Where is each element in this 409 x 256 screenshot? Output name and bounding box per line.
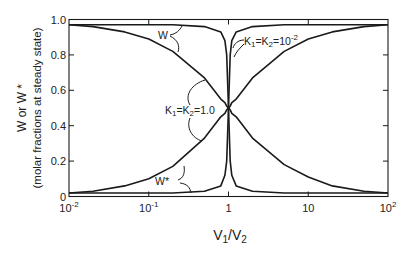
annotation-w: W (158, 29, 168, 41)
annotation-k-tenth: K1=K2=10-2 (244, 33, 299, 49)
arrow-k-tenth-lower (234, 44, 244, 57)
y-tick-label: 0.8 (51, 49, 66, 61)
annotation-k-one: K1=K2=1.0 (165, 104, 215, 118)
arrow-k-one-lower (189, 118, 202, 141)
x-tick-label: 10-2 (59, 200, 79, 214)
y-tick-label: 1.0 (51, 14, 66, 26)
y-axis-title: W or W * (15, 84, 29, 132)
chart: 00.20.40.60.81.0 10-210-1110102 W or W *… (0, 0, 409, 256)
arrow-w-upper (170, 26, 182, 35)
y-axis: 00.20.40.60.81.0 (51, 14, 388, 203)
series-line-3 (69, 25, 388, 193)
annotation-wstar: W* (155, 175, 169, 187)
arrow-w-lower (170, 36, 179, 52)
arrow-k-tenth-upper (233, 40, 244, 48)
arrow-wstar-upper (178, 166, 184, 180)
x-tick-label: 10 (302, 202, 314, 214)
y-tick-label: 0.4 (51, 120, 66, 132)
x-tick-label: 1 (225, 202, 231, 214)
x-tick-label: 102 (380, 200, 397, 214)
curves (69, 25, 388, 193)
y-tick-label: 0.2 (51, 155, 66, 167)
x-tick-label: 10-1 (139, 200, 159, 214)
x-axis-title: V1/V2 (213, 227, 247, 245)
y-axis-subtitle: (molar fractions at steady state) (31, 27, 43, 188)
y-tick-label: 0.6 (51, 84, 66, 96)
arrow-k-one-upper (188, 80, 205, 105)
